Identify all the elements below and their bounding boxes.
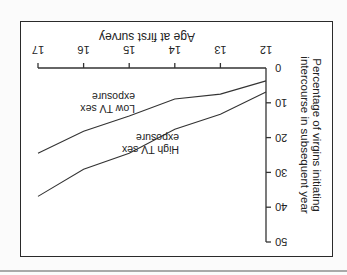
y-axis-title-line2: intercourse in subsequent year [299, 56, 311, 213]
x-tick-label: 12 [256, 44, 276, 56]
series-label-line2: exposure [80, 91, 135, 103]
y-tick-label: 30 [275, 167, 295, 179]
x-tick-label: 14 [165, 44, 185, 56]
y-tick-label: 10 [275, 97, 295, 109]
x-tick-label: 15 [119, 44, 139, 56]
series-label-line1: High TV sex [122, 144, 179, 156]
x-tick-label: 17 [28, 44, 48, 56]
y-axis-title-text: Percentage of virgins initiating interco… [299, 56, 323, 213]
series-label-low-tv-sex-exposure: Low TV sex exposure [80, 91, 135, 115]
x-axis [38, 63, 266, 68]
x-axis-title: Age at first survey [92, 30, 202, 44]
y-tick-label: 50 [275, 236, 295, 248]
series-label-line1: Low TV sex [80, 103, 135, 115]
y-tick-label: 20 [275, 132, 295, 144]
rotated-chart-figure: 0 10 20 30 40 50 12 13 14 15 16 17 Age a… [0, 0, 347, 275]
series-label-high-tv-sex-exposure: High TV sex exposure [122, 132, 179, 156]
y-tick-label: 40 [275, 201, 295, 213]
y-tick-label: 0 [275, 62, 295, 74]
x-tick-label: 13 [210, 44, 230, 56]
y-axis-title-line1: Percentage of virgins initiating [311, 56, 323, 213]
y-axis [266, 68, 271, 242]
x-tick-label: 16 [74, 44, 94, 56]
series-label-line2: exposure [122, 132, 179, 144]
